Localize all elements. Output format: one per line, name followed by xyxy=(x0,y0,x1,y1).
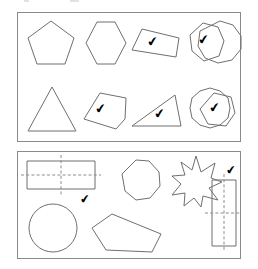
nonagon-shape xyxy=(196,19,244,65)
check-mark-icon: ✔ xyxy=(153,106,166,120)
triangle-isosceles-shape xyxy=(26,85,78,133)
hexagon-shape xyxy=(84,20,128,66)
check-mark-icon: ✔ xyxy=(225,163,237,176)
rectangle-horizontal-shape: ✔ xyxy=(25,157,99,193)
cropped-text-remnant xyxy=(24,0,29,2)
circle-shape xyxy=(27,202,79,254)
irregular-pentagon-2-shape: ✔ xyxy=(198,91,238,129)
check-mark-icon: ✔ xyxy=(146,34,159,48)
pentagon-shape xyxy=(26,19,76,67)
top-panel: ✔ ✔ ✔ ✔ xyxy=(17,12,241,142)
check-mark-icon: ✔ xyxy=(208,100,221,114)
rectangle-vertical-shape: ✔ xyxy=(207,176,241,252)
right-triangle-shape: ✔ xyxy=(130,93,184,129)
check-mark-icon: ✔ xyxy=(79,192,91,205)
bottom-panel: ✔ ✔ xyxy=(17,151,241,259)
irregular-pentagon-1-shape: ✔ xyxy=(82,91,130,131)
worksheet-page: ✔ ✔ ✔ ✔ xyxy=(0,0,258,269)
check-mark-icon: ✔ xyxy=(94,101,107,115)
cropped-text-remnant xyxy=(70,0,79,2)
octagon-shape xyxy=(120,158,162,202)
irregular-quadrilateral-1-shape: ✔ xyxy=(130,26,182,61)
irregular-pentagon-3-shape xyxy=(90,212,164,254)
